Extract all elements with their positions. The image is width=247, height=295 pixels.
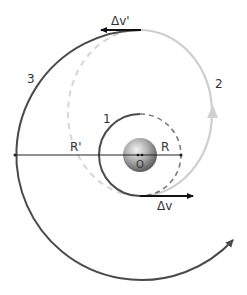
transfer-direction-arrowhead bbox=[207, 105, 218, 118]
label-orbit-1: 1 bbox=[103, 112, 111, 126]
label-center: O bbox=[136, 159, 144, 170]
center-dot-left bbox=[137, 154, 140, 157]
label-delta-v: Δv bbox=[157, 199, 172, 213]
label-radius-inner: R bbox=[161, 140, 169, 154]
center-dot-right bbox=[141, 154, 144, 157]
transfer-orbit-2 bbox=[140, 30, 212, 196]
radius-end-dot-right bbox=[180, 154, 183, 157]
label-delta-v-prime: Δv' bbox=[111, 14, 130, 28]
hohmann-diagram: 1 2 3 Δv Δv' R R' O bbox=[0, 0, 247, 295]
label-radius-outer: R' bbox=[70, 140, 82, 154]
label-orbit-2: 2 bbox=[215, 77, 223, 91]
radius-end-dot-left bbox=[14, 154, 17, 157]
label-orbit-3: 3 bbox=[27, 72, 35, 86]
